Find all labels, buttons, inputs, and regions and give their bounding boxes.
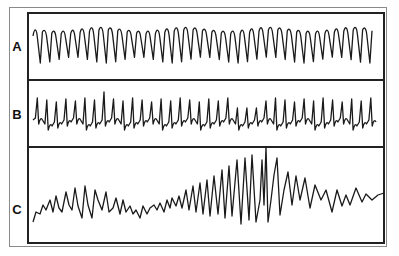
trace-c [33,147,384,224]
trace-b [33,92,376,130]
trace-a [33,27,372,63]
waveform-traces [0,0,399,256]
